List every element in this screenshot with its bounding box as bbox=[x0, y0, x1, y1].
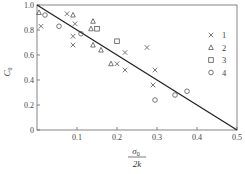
trend-line bbox=[37, 5, 237, 130]
circle-marker bbox=[173, 93, 178, 98]
legend-label: 1 bbox=[222, 30, 226, 40]
triangle-marker bbox=[91, 19, 96, 24]
x-tick-label: 0.4 bbox=[192, 133, 202, 142]
triangle-marker bbox=[109, 61, 114, 66]
y-tick-label: 0.4 bbox=[24, 76, 34, 85]
cross-marker bbox=[123, 50, 128, 55]
triangle-marker bbox=[71, 12, 76, 17]
y-axis-label: C0 bbox=[2, 67, 13, 76]
cross-marker bbox=[145, 45, 150, 50]
cross-marker bbox=[71, 34, 76, 39]
triangle-marker bbox=[91, 42, 96, 47]
x-tick-label: 0.5 bbox=[232, 133, 242, 142]
scatter-chart: 0.10.20.30.40.500.20.40.60.81.01234C0σ02… bbox=[0, 0, 245, 174]
circle-marker bbox=[57, 24, 62, 29]
circle-marker bbox=[185, 89, 190, 94]
x-axis-label-numerator: σ0 bbox=[132, 146, 139, 157]
triangle-marker bbox=[99, 47, 104, 52]
y-tick-label: 0 bbox=[30, 126, 34, 135]
circle-marker bbox=[43, 13, 48, 18]
legend-label: 2 bbox=[222, 43, 226, 53]
y-tick-label: 0.2 bbox=[24, 101, 34, 110]
x-tick-label: 0.3 bbox=[152, 133, 162, 142]
triangle-marker bbox=[209, 45, 214, 50]
cross-marker bbox=[115, 61, 120, 66]
x-axis-label-denominator: 2k bbox=[133, 159, 143, 169]
cross-marker bbox=[153, 68, 158, 73]
cross-marker bbox=[65, 11, 70, 16]
square-marker bbox=[209, 58, 214, 63]
cross-marker bbox=[71, 43, 76, 48]
x-tick-label: 0.1 bbox=[72, 133, 82, 142]
x-tick-label: 0.2 bbox=[112, 133, 122, 142]
cross-marker bbox=[39, 24, 44, 29]
cross-marker bbox=[73, 21, 78, 26]
legend-label: 3 bbox=[222, 55, 226, 65]
y-tick-label: 0.8 bbox=[24, 26, 34, 35]
circle-marker bbox=[209, 70, 214, 75]
y-tick-label: 0.6 bbox=[24, 51, 34, 60]
legend-label: 4 bbox=[222, 68, 227, 78]
square-marker bbox=[115, 39, 120, 44]
square-marker bbox=[95, 26, 100, 31]
y-tick-label: 1.0 bbox=[24, 1, 34, 10]
triangle-marker bbox=[89, 26, 94, 31]
circle-marker bbox=[153, 98, 158, 103]
cross-marker bbox=[123, 68, 128, 73]
cross-marker bbox=[209, 33, 214, 38]
cross-marker bbox=[151, 83, 156, 88]
